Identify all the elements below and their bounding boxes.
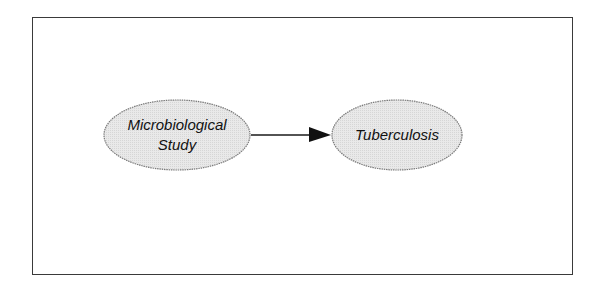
edge-microbiological-study-to-tuberculosis[interactable] bbox=[251, 127, 331, 142]
arrowhead-icon bbox=[309, 127, 331, 142]
node-tuberculosis[interactable]: Tuberculosis bbox=[332, 100, 462, 170]
node-label-line1: Microbiological bbox=[127, 116, 227, 133]
node-label-line2: Study bbox=[158, 136, 198, 153]
node-ellipse bbox=[104, 100, 250, 170]
node-label: Tuberculosis bbox=[355, 126, 439, 143]
diagram-canvas: Microbiological Study Tuberculosis bbox=[0, 0, 597, 298]
node-microbiological-study[interactable]: Microbiological Study bbox=[104, 100, 250, 170]
